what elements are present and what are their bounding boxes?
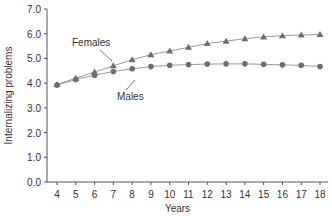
circle-marker xyxy=(223,61,229,67)
x-tick-label: 4 xyxy=(54,189,60,200)
x-tick-label: 18 xyxy=(314,189,326,200)
x-axis-label: Years xyxy=(165,203,190,214)
y-tick-label: 3.0 xyxy=(27,103,41,114)
y-axis-label: Internalizing problems xyxy=(3,47,14,145)
circle-marker xyxy=(280,62,286,68)
x-tick-label: 11 xyxy=(183,189,194,200)
circle-marker xyxy=(261,62,267,68)
leader-line-females xyxy=(100,50,112,61)
triangle-marker xyxy=(317,31,324,37)
x-tick-label: 14 xyxy=(239,189,251,200)
leader-line-males xyxy=(126,80,135,90)
y-tick-label: 0.0 xyxy=(27,177,41,188)
annotation-females: Females xyxy=(72,37,110,48)
circle-marker xyxy=(111,69,117,75)
circle-marker xyxy=(129,66,135,72)
x-tick-label: 6 xyxy=(92,189,98,200)
line-chart: 0.01.02.03.04.05.06.07.04567891011121314… xyxy=(0,0,332,216)
circle-marker xyxy=(242,61,248,67)
y-tick-label: 7.0 xyxy=(27,4,41,15)
x-tick-label: 15 xyxy=(258,189,270,200)
circle-marker xyxy=(148,64,154,70)
circle-marker xyxy=(167,63,173,69)
x-tick-label: 16 xyxy=(277,189,289,200)
circle-marker xyxy=(317,64,323,70)
y-tick-label: 4.0 xyxy=(27,78,41,89)
x-tick-label: 13 xyxy=(221,189,233,200)
y-tick-label: 6.0 xyxy=(27,29,41,40)
x-tick-label: 8 xyxy=(129,189,135,200)
x-tick-label: 17 xyxy=(296,189,308,200)
x-tick-label: 5 xyxy=(73,189,79,200)
x-tick-label: 9 xyxy=(148,189,154,200)
x-tick-label: 7 xyxy=(111,189,117,200)
y-tick-label: 2.0 xyxy=(27,128,41,139)
circle-marker xyxy=(73,77,79,83)
x-tick-label: 10 xyxy=(164,189,176,200)
circle-marker xyxy=(298,63,304,69)
circle-marker xyxy=(92,72,98,78)
circle-marker xyxy=(54,82,60,88)
circle-marker xyxy=(186,62,192,68)
y-tick-label: 5.0 xyxy=(27,53,41,64)
annotation-males: Males xyxy=(117,91,144,102)
x-tick-label: 12 xyxy=(202,189,214,200)
circle-marker xyxy=(204,61,210,67)
y-tick-label: 1.0 xyxy=(27,152,41,163)
